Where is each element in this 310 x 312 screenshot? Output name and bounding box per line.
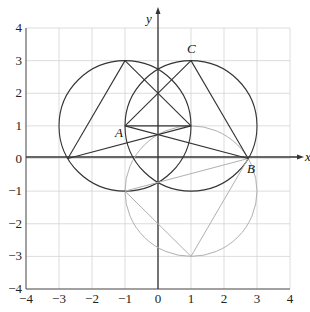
y-tick-label: 1 [16, 118, 23, 133]
y-axis-arrow-icon [156, 7, 161, 14]
segment [68, 126, 191, 159]
y-axis-label: y [144, 11, 152, 26]
x-axis-arrow-icon [297, 155, 304, 160]
segment [68, 61, 125, 159]
y-tick-label: −1 [8, 183, 22, 198]
x-tick-label: −3 [52, 291, 66, 306]
x-tick-label: 3 [254, 291, 261, 306]
x-tick-label: −2 [85, 291, 99, 306]
y-tick-label: 4 [16, 20, 23, 35]
x-tick-label: 0 [155, 291, 162, 306]
axes: x y [26, 7, 310, 289]
y-tick-label: −3 [8, 248, 22, 263]
segment [191, 61, 248, 159]
y-tick-label: −4 [8, 281, 22, 296]
segment [191, 159, 248, 257]
x-tick-label: 4 [287, 291, 294, 306]
point-label-a: A [114, 125, 123, 140]
point-label-c: C [187, 41, 196, 56]
y-tick-label: 0 [16, 151, 23, 166]
x-tick-label: −1 [118, 291, 132, 306]
segment [125, 159, 248, 192]
geometry-figure: −4−3−2−10123443210−1−2−3−4 x y A B C [0, 0, 310, 312]
y-tick-label: 2 [16, 85, 23, 100]
x-tick-label: 2 [221, 291, 228, 306]
x-axis-label: x [304, 149, 310, 164]
y-tick-label: 3 [16, 53, 23, 68]
point-label-b: B [247, 161, 255, 176]
y-tick-label: −2 [8, 216, 22, 231]
x-tick-label: 1 [188, 291, 195, 306]
segment [125, 126, 248, 159]
